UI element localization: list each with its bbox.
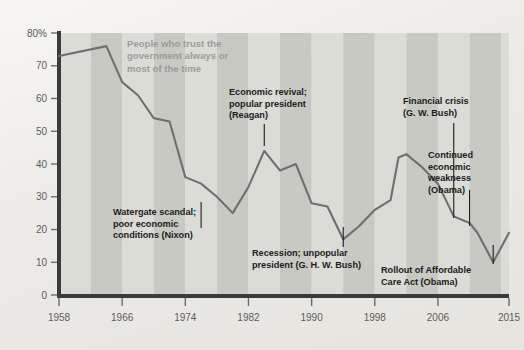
chart-figure: 01020304050607080% 195819661974198219901…: [0, 0, 524, 350]
annotation-ghw-bush: Recession; unpopular president (G. H. W.…: [252, 248, 388, 271]
y-tick-label: 20: [36, 224, 48, 235]
y-tick-label: 60: [36, 93, 48, 104]
background-band: [501, 31, 509, 295]
y-axis-ticks: 01020304050607080%: [27, 28, 58, 301]
y-tick-label: 50: [36, 126, 48, 137]
y-tick-label: 70: [36, 60, 48, 71]
y-tick-label: 40: [36, 159, 48, 170]
x-tick-label: 1958: [48, 312, 71, 323]
annotation-watergate: Watergate scandal; poor economic conditi…: [113, 207, 217, 242]
plot-area: 01020304050607080% 195819661974198219901…: [0, 0, 524, 350]
annotation-aca-rollout: Rollout of Affordable Care Act (Obama): [381, 265, 493, 288]
x-tick-label: 1998: [364, 312, 387, 323]
y-tick-label: 30: [36, 191, 48, 202]
x-axis-ticks: 19581966197419821990199820062015: [48, 298, 521, 323]
x-tick-label: 1966: [111, 312, 134, 323]
x-tick-label: 2006: [427, 312, 450, 323]
background-band: [59, 31, 91, 295]
x-tick-label: 1982: [237, 312, 260, 323]
series-legend-label: People who trust the government always o…: [127, 38, 247, 75]
annotation-reagan: Economic revival; popular president (Rea…: [229, 87, 339, 122]
y-tick-label: 80%: [27, 28, 47, 39]
x-tick-label: 1990: [301, 312, 324, 323]
x-tick-label: 2015: [498, 312, 521, 323]
y-tick-label: 0: [41, 290, 47, 301]
y-tick-label: 10: [36, 257, 48, 268]
x-tick-label: 1974: [174, 312, 197, 323]
annotation-continued-weakness: Continued economic weakness (Obama): [428, 150, 490, 196]
annotation-financial-crisis: Financial crisis (G. W. Bush): [403, 96, 495, 119]
